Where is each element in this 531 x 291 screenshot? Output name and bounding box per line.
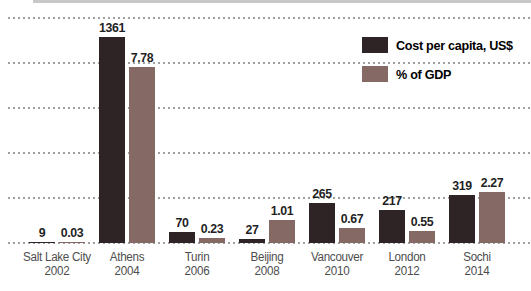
legend-item-pct-gdp: % of GDP bbox=[362, 66, 516, 82]
bar-cost-per-capita-beijing bbox=[239, 239, 265, 243]
legend-swatch-pct-gdp bbox=[362, 66, 388, 82]
bar-pct-gdp-london bbox=[409, 231, 435, 243]
bar-cost-per-capita-athens bbox=[99, 37, 125, 243]
legend-swatch-cost-per-capita bbox=[362, 37, 388, 53]
category-year: 2014 bbox=[435, 264, 519, 278]
category-city: Sochi bbox=[435, 250, 519, 264]
value-label-pct-gdp-beijing: 1.01 bbox=[252, 203, 313, 218]
category-label-sochi: Sochi2014 bbox=[435, 250, 519, 278]
bar-pct-gdp-salt-lake-city bbox=[59, 242, 85, 244]
bar-cost-per-capita-sochi bbox=[449, 195, 475, 243]
legend: Cost per capita, US$ % of GDP bbox=[362, 37, 516, 95]
gridline bbox=[8, 152, 531, 154]
bar-pct-gdp-vancouver bbox=[339, 228, 365, 243]
value-label-pct-gdp-vancouver: 0.67 bbox=[322, 211, 383, 226]
value-label-cost-per-capita-vancouver: 265 bbox=[292, 186, 353, 201]
bar-cost-per-capita-salt-lake-city bbox=[29, 242, 55, 244]
gridline bbox=[8, 107, 531, 109]
value-label-cost-per-capita-athens: 1361 bbox=[82, 20, 143, 35]
value-label-pct-gdp-sochi: 2.27 bbox=[462, 175, 523, 190]
value-label-pct-gdp-london: 0.55 bbox=[392, 214, 453, 229]
value-label-pct-gdp-salt-lake-city: 0.03 bbox=[42, 225, 103, 240]
bar-pct-gdp-sochi bbox=[479, 192, 505, 243]
legend-label-pct-gdp: % of GDP bbox=[396, 67, 451, 82]
legend-item-cost-per-capita: Cost per capita, US$ bbox=[362, 37, 516, 53]
value-label-cost-per-capita-beijing: 27 bbox=[222, 222, 283, 237]
bar-pct-gdp-turin bbox=[199, 238, 225, 243]
legend-label-cost-per-capita: Cost per capita, US$ bbox=[396, 38, 513, 53]
olympics-cost-bar-chart: 90.03Salt Lake City200213617.78Athens200… bbox=[0, 0, 531, 291]
gridline bbox=[8, 17, 531, 19]
value-label-cost-per-capita-london: 217 bbox=[362, 193, 423, 208]
value-label-pct-gdp-athens: 7.78 bbox=[112, 50, 173, 65]
top-border-strip bbox=[33, 0, 531, 3]
